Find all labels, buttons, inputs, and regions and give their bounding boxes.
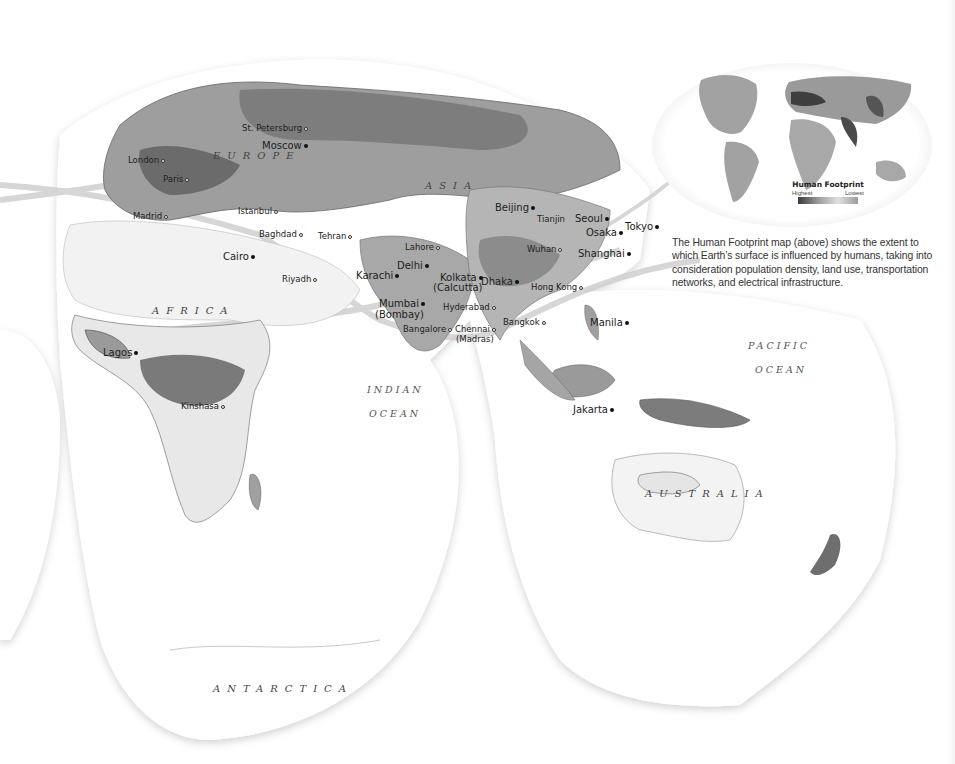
- city-label: Tianjin: [537, 215, 565, 224]
- city-marker-open-icon: [436, 246, 440, 250]
- city-name: Karachi: [356, 270, 393, 281]
- city-marker-open-icon: [542, 321, 546, 325]
- city-label: Manila: [590, 318, 631, 328]
- city-name: Lagos: [103, 347, 132, 358]
- city-name: Paris: [163, 174, 183, 184]
- legend-title: Human Footprint: [792, 180, 864, 189]
- city-label: Tehran: [318, 232, 354, 241]
- map-stage: Human Footprint Highest Lowest The Human…: [0, 0, 955, 764]
- caption: The Human Footprint map (above) shows th…: [672, 236, 942, 290]
- city-label: Paris: [163, 175, 191, 184]
- city-label: Istanbul: [238, 207, 280, 216]
- city-label: Riyadh: [282, 275, 319, 284]
- city-marker-filled-icon: [610, 408, 614, 412]
- city-label: Madrid: [133, 212, 170, 221]
- city-label: Beijing: [495, 203, 537, 213]
- city-name: Wuhan: [527, 244, 556, 254]
- city-name: Shanghai: [578, 248, 625, 259]
- city-name: Moscow: [262, 140, 302, 151]
- city-name: (Bombay): [375, 309, 424, 320]
- city-label: Chennai: [455, 325, 498, 334]
- city-name: Tokyo: [625, 221, 653, 232]
- city-label: Kinshasa: [181, 402, 227, 411]
- city-marker-open-icon: [348, 235, 352, 239]
- city-label: Bangalore: [403, 325, 454, 334]
- city-name: Istanbul: [238, 206, 272, 216]
- city-label: Mumbai: [379, 299, 427, 309]
- city-label: (Bombay): [375, 310, 424, 320]
- city-label: Cairo: [223, 252, 257, 262]
- ocean-label: INDIAN: [367, 384, 424, 395]
- region-label: AFRICA: [152, 305, 235, 316]
- city-name: Seoul: [575, 213, 603, 224]
- region-label: AUSTRALIA: [645, 488, 770, 499]
- city-marker-open-icon: [448, 328, 452, 332]
- city-name: (Calcutta): [433, 282, 483, 293]
- city-marker-open-icon: [492, 306, 496, 310]
- city-name: Bangkok: [503, 317, 540, 327]
- city-marker-open-icon: [185, 178, 189, 182]
- city-name: Bangalore: [403, 324, 446, 334]
- city-label: Lahore: [405, 243, 442, 252]
- city-name: Dhaka: [481, 276, 513, 287]
- city-label: Tokyo: [625, 222, 661, 232]
- city-name: (Madras): [456, 334, 494, 344]
- city-marker-filled-icon: [421, 302, 425, 306]
- ocean-label: PACIFIC: [748, 340, 810, 351]
- city-marker-open-icon: [164, 215, 168, 219]
- city-label: St. Petersburg: [242, 124, 310, 133]
- city-label: Dhaka: [481, 277, 521, 287]
- city-marker-open-icon: [492, 328, 496, 332]
- city-marker-open-icon: [579, 286, 583, 290]
- page-edge: [947, 0, 955, 764]
- city-name: Hyderabad: [443, 302, 490, 312]
- city-label: Bangkok: [503, 318, 548, 327]
- city-name: Tehran: [318, 231, 346, 241]
- city-name: Baghdad: [259, 229, 297, 239]
- city-label: Baghdad: [259, 230, 305, 239]
- city-name: Jakarta: [573, 404, 608, 415]
- city-marker-open-icon: [304, 127, 308, 131]
- city-marker-filled-icon: [134, 351, 138, 355]
- city-label: Moscow: [262, 141, 310, 151]
- city-marker-filled-icon: [304, 144, 308, 148]
- city-label: Hyderabad: [443, 303, 498, 312]
- legend-high-label: Highest: [792, 190, 812, 196]
- city-name: Cairo: [223, 251, 249, 262]
- region-label: ANTARCTICA: [213, 683, 353, 694]
- city-label: Seoul: [575, 214, 611, 224]
- city-marker-open-icon: [221, 405, 225, 409]
- city-name: Tianjin: [537, 214, 565, 224]
- city-marker-filled-icon: [395, 274, 399, 278]
- city-label: Delhi: [397, 261, 431, 271]
- city-marker-filled-icon: [425, 264, 429, 268]
- city-label: Osaka: [586, 228, 625, 238]
- city-name: Lahore: [405, 242, 434, 252]
- city-name: Beijing: [495, 202, 529, 213]
- city-label: Lagos: [103, 348, 140, 358]
- city-label: Hong Kong: [531, 283, 585, 292]
- city-label: Wuhan: [527, 245, 564, 254]
- city-marker-filled-icon: [515, 280, 519, 284]
- city-marker-open-icon: [274, 210, 278, 214]
- region-label: ASIA: [425, 180, 478, 191]
- city-name: Osaka: [586, 227, 617, 238]
- ocean-label: OCEAN: [369, 408, 421, 419]
- city-name: Hong Kong: [531, 282, 577, 292]
- city-name: Riyadh: [282, 274, 311, 284]
- city-marker-filled-icon: [605, 217, 609, 221]
- city-name: Chennai: [455, 324, 490, 334]
- city-marker-filled-icon: [625, 321, 629, 325]
- city-name: London: [128, 155, 159, 165]
- city-name: Manila: [590, 317, 623, 328]
- legend: Human Footprint Highest Lowest: [792, 180, 864, 204]
- city-name: Mumbai: [379, 298, 419, 309]
- city-marker-filled-icon: [251, 255, 255, 259]
- city-marker-filled-icon: [619, 231, 623, 235]
- city-marker-filled-icon: [531, 206, 535, 210]
- city-marker-filled-icon: [627, 252, 631, 256]
- city-marker-open-icon: [558, 248, 562, 252]
- legend-gradient-bar: [798, 197, 858, 204]
- city-label: Karachi: [356, 271, 401, 281]
- legend-low-label: Lowest: [845, 190, 864, 196]
